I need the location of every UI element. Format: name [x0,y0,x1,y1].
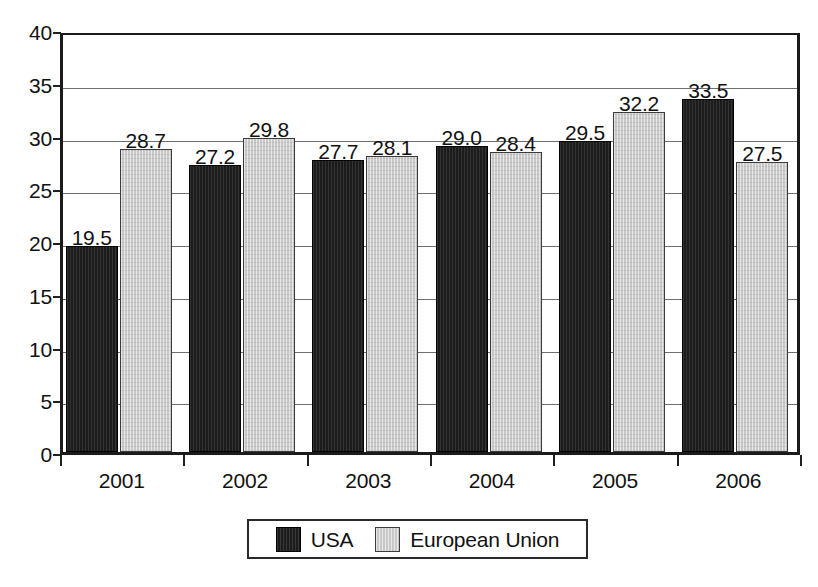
y-axis-tick-label: 20 [8,233,52,254]
bar-value-label: 27.5 [730,143,794,164]
y-axis-tick-label: 25 [8,180,52,201]
bar-eu-2004 [490,152,542,452]
x-axis-tick-mark [60,455,62,466]
legend-label: European Union [410,529,559,550]
chart-legend: USAEuropean Union [247,519,588,559]
bar-chart: 4035302520151050 19.528.727.229.827.728.… [0,0,818,587]
bar-value-label: 33.5 [676,80,740,101]
x-axis-category-label: 2002 [185,470,305,492]
y-axis-tick-label: 10 [8,339,52,360]
bar-value-label: 29.8 [237,119,301,140]
bar-value-label: 29.5 [553,122,617,143]
y-axis-tick-label: 30 [8,128,52,149]
bar-eu-2005 [613,112,665,452]
bar-eu-2002 [243,138,295,452]
x-axis-tick-mark [307,455,309,466]
y-axis-tick-label: 5 [8,391,52,412]
x-axis-category-label: 2003 [308,470,428,492]
bar-eu-2006 [736,162,788,452]
bar-value-label: 28.4 [484,133,548,154]
x-axis-tick-mark [553,455,555,466]
bar-usa-2004 [436,146,488,452]
plot-area: 19.528.727.229.827.728.129.028.429.532.2… [60,33,800,455]
bar-value-label: 28.1 [360,137,424,158]
x-axis-tick-mark [677,455,679,466]
x-axis-category-label: 2006 [678,470,798,492]
bar-eu-2001 [120,149,172,452]
y-axis-tick-label: 15 [8,286,52,307]
bar-usa-2003 [312,160,364,452]
legend-entry-usa: USA [276,527,354,552]
bar-value-label: 28.7 [114,130,178,151]
legend-swatch-icon [276,527,301,552]
bar-usa-2006 [682,99,734,452]
bar-usa-2005 [559,141,611,452]
legend-entry-eu: European Union [375,527,559,552]
x-axis-tick-mark [430,455,432,466]
bar-value-label: 19.5 [60,227,124,248]
y-axis-tick-label: 40 [8,22,52,43]
bars-layer: 19.528.727.229.827.728.129.028.429.532.2… [63,35,797,452]
x-axis-tick-mark [183,455,185,466]
x-axis-category-label: 2001 [62,470,182,492]
legend-label: USA [311,529,354,550]
x-axis-category-label: 2005 [555,470,675,492]
bar-eu-2003 [366,156,418,452]
bar-value-label: 27.2 [183,146,247,167]
y-axis-tick-label: 35 [8,75,52,96]
bar-usa-2002 [189,165,241,452]
bar-usa-2001 [66,246,118,452]
y-axis-tick-label: 0 [8,444,52,465]
x-axis-tick-mark [800,455,802,466]
x-axis-category-label: 2004 [432,470,552,492]
legend-swatch-icon [375,527,400,552]
bar-value-label: 32.2 [607,93,671,114]
